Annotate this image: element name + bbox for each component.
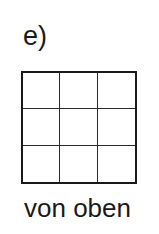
grid-cell-3-2 — [60, 146, 97, 182]
panel-label: e) — [23, 23, 47, 50]
grid-cell-3-1 — [23, 146, 60, 182]
grid-cell-2-2 — [60, 109, 97, 145]
grid-cell-1-1 — [23, 73, 60, 109]
grid-cell-2-1 — [23, 109, 60, 145]
grid-cell-1-3 — [98, 73, 135, 109]
grid-cell-2-3 — [98, 109, 135, 145]
grid-cell-3-3 — [98, 146, 135, 182]
grid-cell-1-2 — [60, 73, 97, 109]
top-view-grid — [21, 71, 137, 184]
view-caption: von oben — [24, 195, 131, 221]
